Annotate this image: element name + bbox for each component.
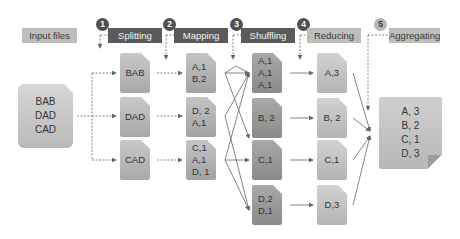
shuffle-line: D,2: [258, 193, 273, 205]
reduce-file-a: A,3: [317, 53, 347, 93]
split-file-1: BAB: [120, 53, 150, 93]
reduce-file-d: D,3: [317, 185, 347, 225]
reduce-file-b: B, 2: [317, 98, 347, 138]
shuffle-line: A,1: [258, 55, 272, 67]
map-line: A,1: [192, 117, 206, 129]
page-curl-icon: [428, 155, 442, 169]
shuffle-file-d: D,2 D,1: [252, 185, 282, 225]
split-file-2: DAD: [120, 97, 150, 137]
step-splitting-label: Splitting: [108, 28, 162, 43]
step-shuffling-label: Shuffling: [241, 28, 295, 43]
map-line: D, 1: [192, 166, 209, 178]
shuffle-file-c: C,1: [252, 140, 282, 180]
map-file-3: C,1 A,1 D, 1: [186, 140, 216, 180]
input-line: BAB: [35, 95, 55, 109]
aggregate-file: A, 3 B, 2 C, 1 D, 3: [379, 97, 442, 169]
mapreduce-diagram: Input files 1 Splitting 2 Mapping 3 Shuf…: [0, 0, 460, 239]
map-line: A,1: [192, 154, 206, 166]
shuffle-line: D,1: [258, 205, 273, 217]
input-line: DAD: [35, 109, 56, 123]
shuffle-line: A,1: [258, 79, 272, 91]
step-number-5: 5: [374, 18, 387, 31]
input-line: CAD: [35, 123, 56, 137]
aggregate-line: A, 3: [402, 105, 420, 119]
reduce-line: B, 2: [324, 112, 341, 124]
shuffle-file-b: B, 2: [252, 98, 282, 138]
step-reducing-label: Reducing: [307, 28, 361, 43]
aggregate-line: C, 1: [401, 133, 419, 147]
map-file-1: A,1 B,2: [186, 53, 216, 93]
reduce-line: A,3: [325, 67, 339, 79]
step-aggregating-label: Aggregating: [389, 28, 440, 43]
shuffle-file-a: A,1 A,1 A,1: [252, 53, 282, 93]
split-line: BAB: [125, 67, 144, 79]
map-file-2: D, 2 A,1: [186, 97, 216, 137]
reduce-line: C,1: [325, 154, 340, 166]
shuffle-line: A,1: [258, 67, 272, 79]
map-line: C,1: [192, 142, 207, 154]
map-line: B,2: [192, 73, 206, 85]
shuffle-line: C,1: [258, 154, 273, 166]
reduce-file-c: C,1: [317, 140, 347, 180]
input-files-label: Input files: [22, 28, 77, 43]
step-mapping-label: Mapping: [174, 28, 228, 43]
split-line: CAD: [125, 154, 145, 166]
split-line: DAD: [125, 111, 145, 123]
reduce-line: D,3: [325, 199, 340, 211]
aggregate-line: D, 3: [401, 147, 419, 161]
map-line: D, 2: [192, 105, 209, 117]
shuffle-line: B, 2: [258, 112, 275, 124]
map-line: A,1: [192, 61, 206, 73]
input-file: BAB DAD CAD: [18, 84, 73, 148]
split-file-3: CAD: [120, 140, 150, 180]
aggregate-line: B, 2: [402, 119, 420, 133]
